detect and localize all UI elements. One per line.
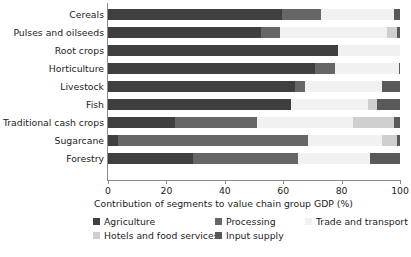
- category-label: Fish: [0, 99, 104, 110]
- bar-segment: [338, 45, 400, 56]
- x-tick-mark: [400, 181, 401, 184]
- bar-segment: [399, 63, 400, 74]
- legend-label: Processing: [226, 216, 276, 227]
- chart-legend: AgricultureProcessingTrade and transport…: [0, 216, 411, 252]
- bar-segment: [175, 117, 257, 128]
- legend-item[interactable]: Processing: [215, 216, 276, 227]
- bar-segment: [387, 27, 397, 38]
- bar-segment: [308, 135, 382, 146]
- bar-segment: [335, 63, 399, 74]
- bar-segment: [108, 63, 315, 74]
- legend-item[interactable]: Trade and transport: [305, 216, 408, 227]
- legend-label: Hotels and food services: [104, 230, 219, 241]
- x-axis-title: Contribution of segments to value chain …: [0, 198, 411, 209]
- bar-segment: [394, 117, 400, 128]
- bar-segment: [261, 27, 280, 38]
- x-tick-mark: [225, 181, 226, 184]
- bar-segment: [108, 81, 295, 92]
- bar-segment: [305, 81, 382, 92]
- category-label: Forestry: [0, 153, 104, 164]
- category-label: Cereals: [0, 9, 104, 20]
- category-label: Root crops: [0, 45, 104, 56]
- legend-label: Input supply: [226, 230, 284, 241]
- bar-segment: [108, 9, 282, 20]
- bar-segment: [397, 27, 400, 38]
- bar-segment: [298, 153, 370, 164]
- bar-row: [108, 153, 400, 164]
- x-tick-label: 80: [336, 185, 348, 197]
- x-tick-label: 0: [105, 185, 111, 197]
- x-tick-label: 100: [391, 185, 409, 197]
- bar-row: [108, 81, 400, 92]
- bar-segment: [382, 81, 400, 92]
- legend-item[interactable]: Hotels and food services: [93, 230, 219, 241]
- category-label: Livestock: [0, 81, 104, 92]
- bar-segment: [382, 135, 397, 146]
- bar-row: [108, 45, 400, 56]
- bar-segment: [370, 153, 400, 164]
- legend-swatch-icon: [215, 232, 222, 239]
- category-label: Sugarcane: [0, 135, 104, 146]
- category-label: Pulses and oilseeds: [0, 27, 104, 38]
- bar-segment: [108, 153, 193, 164]
- category-label: Traditional cash crops: [0, 117, 104, 128]
- stacked-bar-chart: CerealsPulses and oilseedsRoot cropsHort…: [0, 0, 411, 257]
- bar-segment: [397, 135, 400, 146]
- x-tick-label: 20: [160, 185, 172, 197]
- bar-row: [108, 99, 400, 110]
- bar-segment: [108, 99, 291, 110]
- bar-row: [108, 135, 400, 146]
- bar-segment: [193, 153, 298, 164]
- x-tick-mark: [342, 181, 343, 184]
- category-label: Horticulture: [0, 63, 104, 74]
- bar-segment: [394, 9, 400, 20]
- legend-swatch-icon: [93, 218, 100, 225]
- bar-row: [108, 9, 400, 20]
- x-tick-mark: [108, 181, 109, 184]
- legend-swatch-icon: [305, 218, 312, 225]
- bar-segment: [377, 99, 400, 110]
- legend-item[interactable]: Input supply: [215, 230, 284, 241]
- bar-row: [108, 117, 400, 128]
- plot-area: [108, 4, 400, 178]
- bar-segment: [291, 99, 368, 110]
- legend-item[interactable]: Agriculture: [93, 216, 155, 227]
- x-tick-mark: [283, 181, 284, 184]
- bar-segment: [280, 27, 387, 38]
- bar-segment: [108, 135, 118, 146]
- bar-segment: [368, 99, 377, 110]
- bar-segment: [108, 27, 261, 38]
- legend-label: Agriculture: [104, 216, 155, 227]
- bar-segment: [108, 45, 338, 56]
- bar-segment: [315, 63, 335, 74]
- x-tick-label: 60: [277, 185, 289, 197]
- x-tick-label: 40: [219, 185, 231, 197]
- x-axis-line: [107, 180, 401, 181]
- legend-label: Trade and transport: [316, 216, 408, 227]
- bar-segment: [257, 117, 353, 128]
- bar-segment: [353, 117, 394, 128]
- bar-segment: [282, 9, 321, 20]
- bar-segment: [108, 117, 175, 128]
- bar-row: [108, 63, 400, 74]
- bar-segment: [321, 9, 394, 20]
- x-tick-mark: [166, 181, 167, 184]
- bar-segment: [295, 81, 305, 92]
- bar-row: [108, 27, 400, 38]
- bar-segment: [118, 135, 308, 146]
- legend-swatch-icon: [93, 232, 100, 239]
- legend-swatch-icon: [215, 218, 222, 225]
